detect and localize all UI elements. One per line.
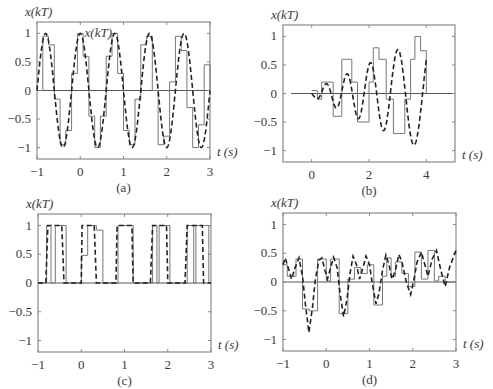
y-tick-label: 0.5	[261, 57, 277, 72]
x-tick-label: 1	[121, 357, 128, 372]
x-tick-label: −1	[31, 357, 45, 372]
y-axis-label: x(kT)	[24, 4, 52, 19]
figure-canvas: 10.50−0.5−1−10123x(kT)t (s)(a)x(kT)10.50…	[0, 0, 493, 389]
x-tick-label: 3	[208, 357, 215, 372]
panel-a: 10.50−0.5−1−10123x(kT)t (s)(a)x(kT)	[7, 4, 237, 195]
x-tick-label: 2	[366, 167, 373, 182]
panel-caption: (b)	[361, 183, 376, 198]
y-tick-label: 0.5	[261, 245, 277, 260]
y-tick-label: 0	[25, 83, 32, 98]
y-tick-label: −0.5	[8, 304, 32, 319]
panel-d: 10.50−0.5−1−10123x(kT)t (s)(d)	[253, 195, 483, 387]
y-axis-label: x(kT)	[270, 195, 298, 210]
y-tick-label: −1	[263, 143, 277, 158]
x-axis-label: t (s)	[463, 336, 484, 351]
y-tick-label: −0.5	[253, 303, 277, 318]
y-tick-label: 1	[26, 218, 33, 233]
y-tick-label: 0.5	[16, 246, 32, 261]
x-axis-label: t (s)	[217, 144, 238, 159]
panel-b: 10.50−0.5−1024x(kT)t (s)(b)	[253, 7, 482, 198]
y-tick-label: −0.5	[253, 114, 277, 129]
y-tick-label: −1	[17, 140, 31, 155]
y-tick-label: −0.5	[7, 111, 31, 126]
x-tick-label: 1	[120, 164, 127, 179]
y-tick-label: 1	[25, 25, 32, 40]
y-tick-label: 0	[271, 86, 278, 101]
x-tick-label: 0	[308, 167, 315, 182]
y-tick-label: −1	[263, 332, 277, 347]
y-tick-label: 0	[26, 275, 33, 290]
y-tick-label: 0	[271, 274, 278, 289]
y-tick-label: −1	[18, 333, 32, 348]
y-tick-label: 1	[271, 28, 278, 43]
panel-caption: (c)	[117, 373, 131, 388]
x-tick-label: 0	[323, 356, 330, 371]
x-tick-label: −1	[30, 164, 44, 179]
y-tick-label: 1	[271, 217, 278, 232]
continuous-signal	[283, 250, 456, 332]
y-axis-label: x(kT)	[25, 196, 53, 211]
x-tick-label: 0	[78, 357, 85, 372]
continuous-signal	[38, 226, 211, 284]
x-tick-label: 2	[164, 164, 171, 179]
x-tick-label: 1	[366, 356, 373, 371]
curve-annotation: x(kT)	[84, 25, 112, 40]
y-axis-label: x(kT)	[270, 7, 298, 22]
x-tick-label: 3	[207, 164, 214, 179]
panel-caption: (a)	[116, 180, 130, 195]
x-axis-label: t (s)	[462, 147, 483, 162]
x-tick-label: 2	[165, 357, 172, 372]
x-tick-label: −1	[276, 356, 290, 371]
x-tick-label: 4	[423, 167, 430, 182]
x-axis-label: t (s)	[218, 337, 239, 352]
x-tick-label: 2	[410, 356, 417, 371]
x-tick-label: 3	[453, 356, 460, 371]
x-tick-label: 0	[77, 164, 84, 179]
panel-c: 10.50−0.5−1−10123x(kT)t (s)(c)	[8, 196, 238, 388]
y-tick-label: 0.5	[15, 54, 31, 69]
panel-caption: (d)	[362, 372, 377, 387]
